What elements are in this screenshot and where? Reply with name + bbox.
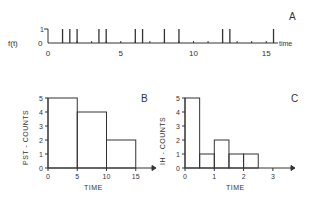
b-xlabel: TIME <box>84 184 103 191</box>
xtick-label: 15 <box>262 49 271 58</box>
ytick-label: 3 <box>176 123 180 130</box>
xtick-label: 0 <box>183 173 187 180</box>
xtick-label: 2 <box>242 173 246 180</box>
ytick-label: 0 <box>39 165 43 172</box>
ytick-1: 1 <box>40 26 44 33</box>
ytick-label: 1 <box>39 151 43 158</box>
xtick-label: 10 <box>103 173 111 180</box>
xtick-label: 5 <box>119 49 124 58</box>
ytick-label: 5 <box>39 95 43 102</box>
figure: A f(t) 0 1 time 051015 B TIME PST - COUN… <box>0 0 317 198</box>
xtick-label: 10 <box>189 49 198 58</box>
ytick-label: 4 <box>176 109 180 116</box>
histogram-bar <box>48 98 77 168</box>
xtick-label: 0 <box>46 173 50 180</box>
panel-label-c: C <box>291 93 298 104</box>
c-xlabel: TIME <box>226 184 245 191</box>
histogram-bar <box>107 140 136 168</box>
histogram-bar <box>185 98 200 168</box>
histogram-bar <box>229 154 244 168</box>
time-axis-label: time <box>279 40 292 47</box>
c-ylabel: IH - COUNTS <box>159 117 166 165</box>
xtick-label: 5 <box>75 173 79 180</box>
xtick-label: 1 <box>212 173 216 180</box>
ytick-label: 1 <box>176 151 180 158</box>
ytick-label: 4 <box>39 109 43 116</box>
b-ylabel: PST - COUNTS <box>22 110 29 165</box>
xtick-label: 3 <box>271 173 275 180</box>
f-axis-label: f(t) <box>8 39 18 48</box>
histogram-bar <box>200 154 215 168</box>
histogram-bar <box>214 140 229 168</box>
ytick-label: 2 <box>176 137 180 144</box>
xtick-label: 0 <box>46 49 51 58</box>
histogram-bar <box>77 112 106 168</box>
xtick-label: 15 <box>132 173 140 180</box>
ytick-label: 0 <box>176 165 180 172</box>
histogram-bar <box>244 154 259 168</box>
panel-b <box>45 98 156 171</box>
ytick-0: 0 <box>38 39 43 48</box>
ytick-label: 5 <box>176 95 180 102</box>
ytick-label: 2 <box>39 137 43 144</box>
panel-label-a: A <box>289 11 296 22</box>
ytick-label: 3 <box>39 123 43 130</box>
panel-a <box>44 29 278 43</box>
panel-c <box>182 98 295 171</box>
panel-label-b: B <box>141 93 148 104</box>
